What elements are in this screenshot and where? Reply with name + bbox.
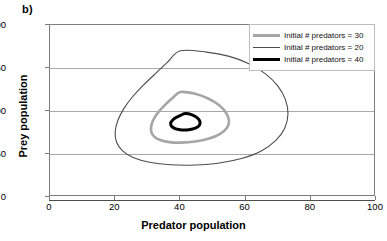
- x-tick-label-60: 60: [230, 201, 260, 212]
- x-tick-label-0: 0: [34, 201, 64, 212]
- legend-swatch-line-icon: [253, 34, 280, 37]
- panel-label: b): [22, 3, 33, 15]
- x-tick-label-20: 20: [99, 201, 129, 212]
- series-curve-1: [151, 92, 229, 143]
- x-tick-label-80: 80: [295, 201, 325, 212]
- plot-frame: Initial # predators = 30Initial # predat…: [49, 24, 375, 196]
- series-curve-3: [171, 114, 200, 130]
- x-axis-line: [49, 200, 375, 201]
- legend-label: Initial # predators = 20: [284, 42, 363, 53]
- legend-item: Initial # predators = 20: [253, 42, 370, 53]
- y-tick-label-200: 200: [0, 19, 6, 30]
- legend-item: Initial # predators = 40: [253, 54, 370, 65]
- legend-swatch-line-icon: [253, 47, 280, 48]
- y-axis-label: Prey population: [17, 41, 29, 191]
- y-tick-label-100: 100: [0, 105, 6, 116]
- chart-legend: Initial # predators = 30Initial # predat…: [249, 24, 375, 71]
- x-axis-label: Predator population: [0, 219, 387, 231]
- legend-label: Initial # predators = 30: [284, 30, 363, 41]
- legend-item: Initial # predators = 30: [253, 30, 370, 41]
- legend-swatch-line-icon: [253, 58, 280, 61]
- x-tick-label-100: 100: [360, 201, 387, 212]
- legend-label: Initial # predators = 40: [284, 54, 363, 65]
- y-tick-label-150: 150: [0, 62, 6, 73]
- y-tick-label-50: 50: [0, 148, 6, 159]
- x-tick-label-40: 40: [164, 201, 194, 212]
- y-tick-label-0: 0: [0, 191, 6, 202]
